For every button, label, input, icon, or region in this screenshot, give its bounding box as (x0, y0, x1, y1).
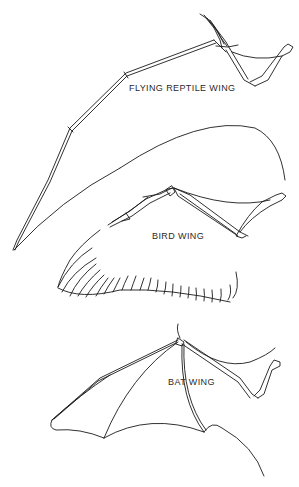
flying-reptile-wing-label: FLYING REPTILE WING (129, 84, 235, 93)
bird-wing-label: BIRD WING (152, 232, 204, 241)
bat-wing-drawing (0, 0, 299, 487)
wing-comparison-figure: FLYING REPTILE WING BIRD WING BAT WING (0, 0, 299, 487)
bat-wing-label: BAT WING (168, 378, 215, 387)
